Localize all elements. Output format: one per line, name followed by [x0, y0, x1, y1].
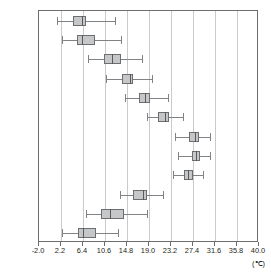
box-plot-chart: 1月2月3月4月5月6月7月8月9月10月11月12月 -2.02.26.410… — [0, 0, 271, 275]
category-axis: 1月2月3月4月5月6月7月8月9月10月11月12月 — [0, 10, 271, 242]
axis-unit-label: (℃) — [252, 259, 265, 268]
x-axis-tick-label: 40.0 — [243, 246, 271, 255]
x-axis-labels: -2.02.26.410.614.819.023.227.431.635.840… — [0, 246, 271, 258]
